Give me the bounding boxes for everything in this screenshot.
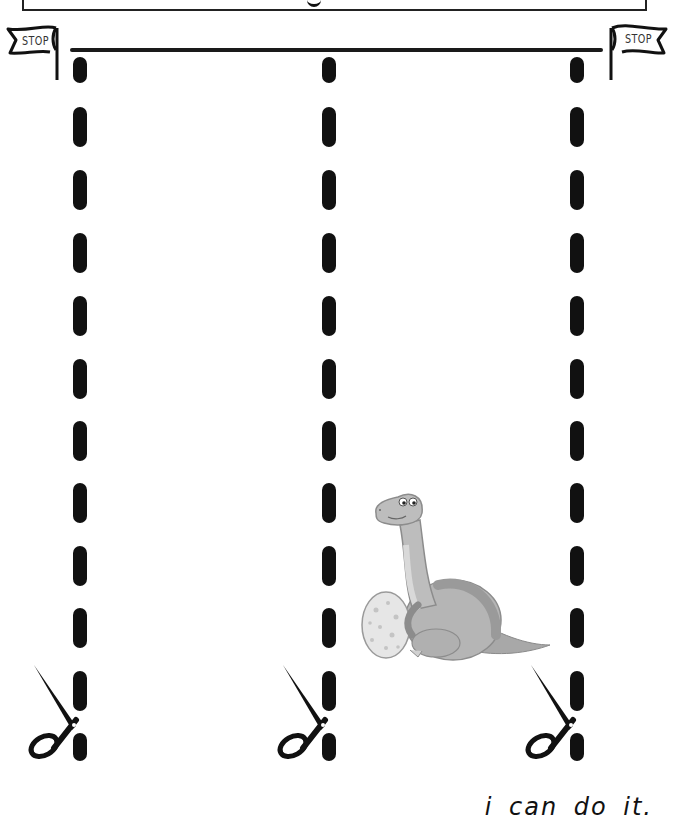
scissors-icon xyxy=(273,660,343,764)
dash xyxy=(322,359,336,399)
dash xyxy=(322,546,336,586)
dash xyxy=(73,546,87,586)
scissors-icon xyxy=(24,660,94,764)
dash xyxy=(73,107,87,147)
dash xyxy=(322,483,336,523)
title-box xyxy=(22,0,647,11)
stop-flag-left: STOP xyxy=(4,18,64,88)
dash xyxy=(570,483,584,523)
footer-encouragement: i can do it. xyxy=(485,793,653,821)
stop-flag-right-label: STOP xyxy=(625,32,652,46)
dash xyxy=(570,421,584,461)
dash xyxy=(570,359,584,399)
dash xyxy=(73,170,87,210)
dash xyxy=(322,608,336,648)
dash xyxy=(73,359,87,399)
dash xyxy=(73,57,87,83)
dinosaur-illustration xyxy=(358,485,553,674)
dash xyxy=(73,421,87,461)
dash xyxy=(73,608,87,648)
stop-flag-right: STOP xyxy=(608,18,672,88)
dash xyxy=(322,233,336,273)
dash xyxy=(73,296,87,336)
dash xyxy=(570,546,584,586)
dash xyxy=(322,296,336,336)
top-rule xyxy=(70,48,603,52)
dash xyxy=(322,57,336,83)
dash xyxy=(73,233,87,273)
dash xyxy=(322,421,336,461)
dash xyxy=(570,608,584,648)
dash xyxy=(570,170,584,210)
dash xyxy=(322,170,336,210)
flag-icon xyxy=(4,18,64,88)
dash xyxy=(73,483,87,523)
flag-icon xyxy=(608,18,672,88)
stop-flag-left-label: STOP xyxy=(22,34,49,48)
scissors-icon xyxy=(521,660,591,764)
dash xyxy=(570,296,584,336)
title-text-fragment xyxy=(307,0,321,7)
dash xyxy=(570,57,584,83)
dash xyxy=(570,107,584,147)
dash xyxy=(570,233,584,273)
dash xyxy=(322,107,336,147)
